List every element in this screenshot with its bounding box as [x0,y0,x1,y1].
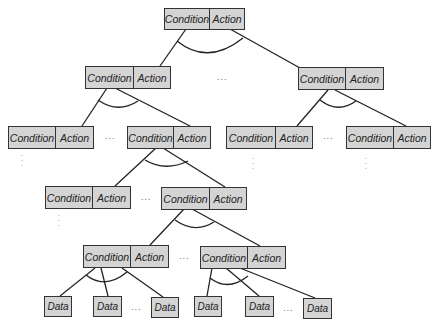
horizontal-ellipsis: ... [217,72,228,82]
horizontal-ellipsis: ... [323,131,334,141]
tree-node-l5-2: Condition Action [200,246,286,269]
horizontal-ellipsis: ... [131,302,142,312]
vertical-ellipsis: ··· [56,213,62,228]
data-node: Data [194,296,222,317]
condition-cell: Condition [84,246,131,267]
tree-node-l2-left: Condition Action [85,66,171,89]
vertical-ellipsis: ··· [363,156,369,171]
horizontal-ellipsis: ... [179,251,190,261]
tree-node-l2-right: Condition Action [298,67,384,90]
tree-node-root: Condition Action [164,8,245,30]
vertical-ellipsis: ··· [250,156,256,171]
data-node: Data [245,296,274,317]
tree-node-l3-2: Condition Action [127,126,211,149]
horizontal-ellipsis: ... [105,131,116,141]
action-cell: Action [210,9,244,29]
data-node: Data [303,298,332,319]
condition-cell: Condition [201,247,248,268]
condition-cell: Condition [227,127,276,148]
action-cell: Action [394,127,430,148]
tree-edges [0,0,436,321]
condition-cell: Condition [165,9,210,29]
tree-node-l3-1: Condition Action [8,126,94,149]
tree-node-l3-4: Condition Action [346,126,431,149]
tree-node-l4-1: Condition Action [45,186,131,209]
horizontal-ellipsis: ... [283,303,294,313]
action-cell: Action [276,127,312,148]
condition-cell: Condition [128,127,174,148]
condition-cell: Condition [9,127,56,148]
action-cell: Action [210,188,246,209]
condition-cell: Condition [46,187,93,208]
data-node: Data [151,297,179,318]
condition-cell: Condition [162,188,210,209]
tree-node-l4-2: Condition Action [161,187,247,210]
condition-cell: Condition [299,68,346,89]
vertical-ellipsis: ··· [19,153,25,168]
data-node: Data [93,296,122,317]
tree-node-l3-3: Condition Action [226,126,313,149]
action-cell: Action [248,247,285,268]
action-cell: Action [131,246,168,267]
action-cell: Action [346,68,383,89]
condition-cell: Condition [347,127,394,148]
tree-node-l5-1: Condition Action [83,245,169,268]
action-cell: Action [134,67,170,88]
action-cell: Action [93,187,130,208]
data-node: Data [44,296,72,317]
condition-cell: Condition [86,67,134,88]
action-cell: Action [174,127,210,148]
horizontal-ellipsis: ... [141,192,152,202]
action-cell: Action [56,127,93,148]
